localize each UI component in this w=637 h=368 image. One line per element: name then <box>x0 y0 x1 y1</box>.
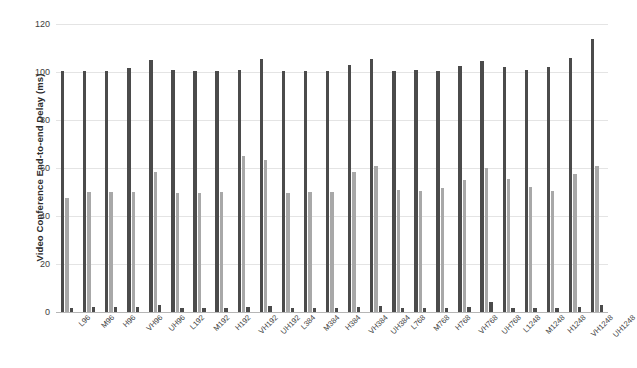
bar <box>220 192 223 312</box>
bar <box>246 307 249 312</box>
bar <box>480 61 483 312</box>
bar <box>419 191 422 312</box>
bar <box>348 65 351 312</box>
bar-group <box>188 24 210 312</box>
x-tick-label: UH96 <box>167 313 187 333</box>
bar <box>326 71 329 312</box>
bar-group <box>586 24 608 312</box>
x-tick-label: M192 <box>211 313 231 333</box>
bar <box>158 305 161 312</box>
bar <box>149 60 152 312</box>
bar <box>260 59 263 312</box>
y-tick-label: 100 <box>10 67 50 77</box>
bar <box>463 180 466 312</box>
bar <box>335 308 338 312</box>
x-tick-label: H1248 <box>565 313 587 335</box>
bar <box>441 188 444 312</box>
bar-group <box>299 24 321 312</box>
bar <box>154 172 157 312</box>
bar <box>401 308 404 312</box>
bar <box>591 39 594 312</box>
bar-group <box>564 24 586 312</box>
bar <box>379 306 382 312</box>
bar-group <box>56 24 78 312</box>
bar <box>414 70 417 312</box>
bar <box>511 308 514 312</box>
bar-group <box>409 24 431 312</box>
x-tick-label: VH768 <box>477 313 500 336</box>
bar <box>304 71 307 312</box>
x-tick-label: UH1248 <box>611 313 637 339</box>
bar-group <box>78 24 100 312</box>
bar <box>573 174 576 312</box>
x-tick-label: M1248 <box>544 313 567 336</box>
bar-group <box>343 24 365 312</box>
bar <box>529 187 532 312</box>
bar <box>352 172 355 312</box>
y-tick-label: 120 <box>10 19 50 29</box>
x-tick-label: L384 <box>299 313 317 331</box>
bar <box>291 308 294 312</box>
bar <box>370 59 373 312</box>
bar <box>136 307 139 312</box>
bar <box>595 166 598 312</box>
bar-group <box>321 24 343 312</box>
bar-groups <box>56 24 608 312</box>
x-tick-label: M768 <box>432 313 452 333</box>
x-tick-label: VH384 <box>367 313 390 336</box>
x-tick-label: L768 <box>409 313 427 331</box>
bar-group <box>453 24 475 312</box>
bar <box>547 67 550 312</box>
x-tick-label: VH192 <box>256 313 279 336</box>
bar <box>238 70 241 312</box>
bar <box>65 198 68 312</box>
bar <box>215 71 218 312</box>
bar-group <box>498 24 520 312</box>
bar <box>180 308 183 312</box>
bar <box>92 307 95 312</box>
bar <box>555 308 558 312</box>
y-tick-label: 40 <box>10 211 50 221</box>
bar <box>132 192 135 312</box>
bar <box>87 192 90 312</box>
bar <box>374 166 377 312</box>
bar-group <box>233 24 255 312</box>
bar <box>357 307 360 312</box>
plot-area: 020406080100120 <box>56 24 608 312</box>
bar <box>308 192 311 312</box>
bar <box>489 302 492 312</box>
bar-group <box>542 24 564 312</box>
x-tick-label: L96 <box>77 313 92 328</box>
bar <box>171 70 174 312</box>
x-axis-tick-labels: L96M96H96VH96UH96L192M192H192VH192UH192L… <box>56 313 608 368</box>
bar <box>105 71 108 312</box>
bar <box>507 179 510 312</box>
bar <box>330 192 333 312</box>
bar-group <box>166 24 188 312</box>
bar-group <box>387 24 409 312</box>
y-tick-label: 60 <box>10 163 50 173</box>
bar <box>458 66 461 312</box>
bar <box>242 156 245 312</box>
bar-group <box>211 24 233 312</box>
bar <box>313 308 316 312</box>
bar <box>423 308 426 312</box>
bar <box>533 308 536 312</box>
x-tick-label: VH1248 <box>589 313 615 339</box>
bar <box>551 191 554 312</box>
x-tick-label: H768 <box>454 313 473 332</box>
bar <box>264 160 267 312</box>
bar <box>127 68 130 312</box>
bar <box>176 193 179 312</box>
x-tick-label: L192 <box>188 313 206 331</box>
x-tick-label: M96 <box>99 313 116 330</box>
bar <box>224 308 227 312</box>
bar-group <box>100 24 122 312</box>
bar-group <box>255 24 277 312</box>
bar <box>525 70 528 312</box>
bar <box>61 71 64 312</box>
y-tick-label: 20 <box>10 259 50 269</box>
bar <box>286 193 289 312</box>
bar <box>467 307 470 312</box>
